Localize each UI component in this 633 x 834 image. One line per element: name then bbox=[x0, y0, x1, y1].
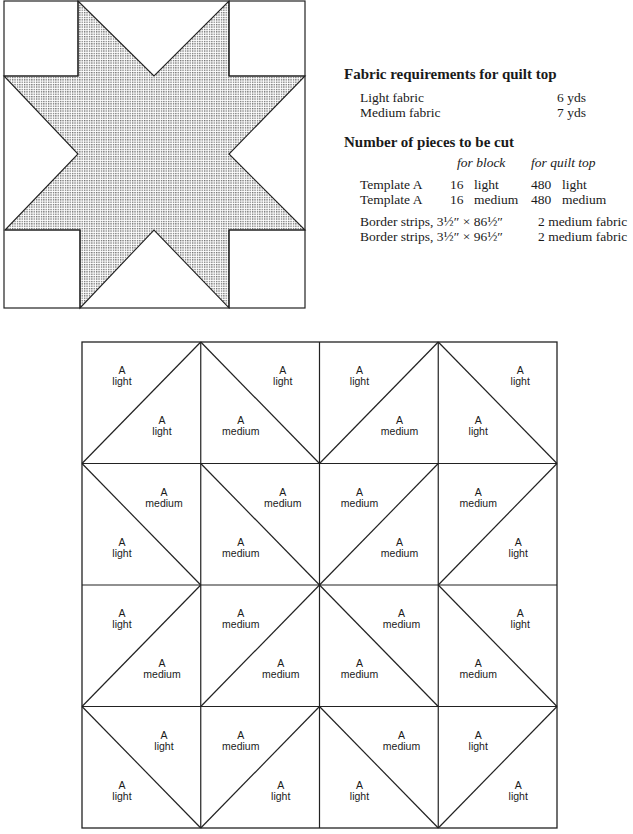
template-row-1-name: Template A bbox=[360, 177, 422, 193]
border-row-2-qty: 2 medium fabric bbox=[538, 229, 627, 245]
col-header-block: for block bbox=[457, 155, 505, 171]
pieces-heading: Number of pieces to be cut bbox=[344, 134, 514, 151]
template-row-1-block-count: 16 bbox=[450, 177, 464, 193]
fabric-light-amount: 6 yds bbox=[557, 90, 586, 106]
col-header-quilt: for quilt top bbox=[531, 155, 596, 171]
template-row-1-block-color: light bbox=[474, 177, 499, 193]
template-row-2-quilt-count: 480 bbox=[531, 192, 551, 208]
template-row-2-block-count: 16 bbox=[450, 192, 464, 208]
border-row-1-label: Border strips, 3½″ × 86½″ bbox=[360, 214, 503, 230]
fabric-medium-label: Medium fabric bbox=[360, 105, 441, 121]
fabric-requirements-heading: Fabric requirements for quilt top bbox=[344, 66, 557, 83]
border-row-1-qty: 2 medium fabric bbox=[538, 214, 627, 230]
border-row-2-label: Border strips, 3½″ × 96½″ bbox=[360, 229, 503, 245]
template-row-1-quilt-count: 480 bbox=[531, 177, 551, 193]
fabric-medium-amount: 7 yds bbox=[557, 105, 586, 121]
template-row-2-block-color: medium bbox=[474, 192, 518, 208]
template-row-1-quilt-color: light bbox=[562, 177, 587, 193]
template-layout-grid: AlightAlightAlightAmediumAlightAmediumAl… bbox=[80, 340, 560, 832]
requirements-panel: Fabric requirements for quilt top Light … bbox=[0, 0, 633, 320]
template-row-2-quilt-color: medium bbox=[562, 192, 606, 208]
fabric-light-label: Light fabric bbox=[360, 90, 424, 106]
template-row-2-name: Template A bbox=[360, 192, 422, 208]
